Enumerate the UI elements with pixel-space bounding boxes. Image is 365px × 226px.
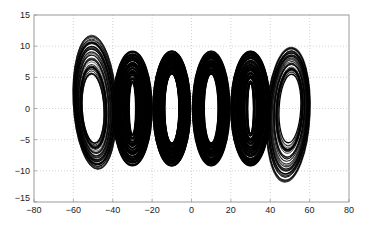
x-tick-label: 0 <box>189 205 194 215</box>
y-tick-label: −10 <box>15 166 30 176</box>
x-tick-label: −20 <box>144 205 159 215</box>
y-tick-label: −5 <box>20 135 30 145</box>
attractor-chart: −80−60−40−20020406080 −15−10−5051015 <box>0 0 365 226</box>
x-tick-label: 40 <box>265 205 275 215</box>
y-tick-label: 15 <box>20 10 30 20</box>
y-tick-label: 5 <box>25 72 30 82</box>
y-tick-label: −15 <box>15 193 30 203</box>
y-tick-label: 0 <box>25 104 30 114</box>
y-tick-label: 10 <box>20 41 30 51</box>
x-tick-label: 20 <box>226 205 236 215</box>
x-tick-label: 80 <box>344 205 354 215</box>
x-tick-label: −40 <box>105 205 120 215</box>
x-tick-label: −60 <box>66 205 81 215</box>
x-tick-label: −80 <box>26 205 41 215</box>
x-tick-label: 60 <box>305 205 315 215</box>
